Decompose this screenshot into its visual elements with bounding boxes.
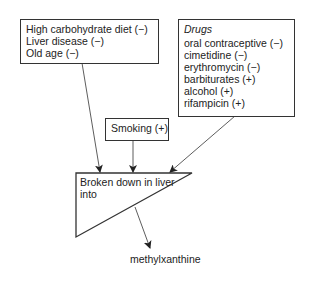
drug-item: cimetidine (−) [184,49,289,61]
smoking-box: Smoking (+) [105,118,169,141]
drug-item: oral contraceptive (−) [184,37,289,49]
drugs-box: Drugs oral contraceptive (−) cimetidine … [178,19,295,117]
factor-item: High carbohydrate diet (−) [26,23,153,35]
drug-item: barbiturates (+) [184,73,289,85]
arrow-factors-to-liver [82,63,100,172]
diagram: High carbohydrate diet (−) Liver disease… [0,0,313,282]
smoking-label: Smoking (+) [111,122,163,134]
liver-triangle-text: Broken down in liver into [80,176,175,200]
drug-item: rifampicin (+) [184,97,289,109]
liver-text-line: Broken down in liver [80,176,175,188]
product-label: methylxanthine [130,253,201,265]
factor-item: Liver disease (−) [26,35,153,47]
arrow-liver-to-product [135,207,150,248]
factor-item: Old age (−) [26,47,153,59]
liver-text-line: into [80,188,175,200]
drug-item: alcohol (+) [184,85,289,97]
drug-item: erythromycin (−) [184,61,289,73]
arrow-drugs-to-liver [170,116,235,172]
factors-box: High carbohydrate diet (−) Liver disease… [20,19,159,64]
drugs-title: Drugs [184,23,289,35]
